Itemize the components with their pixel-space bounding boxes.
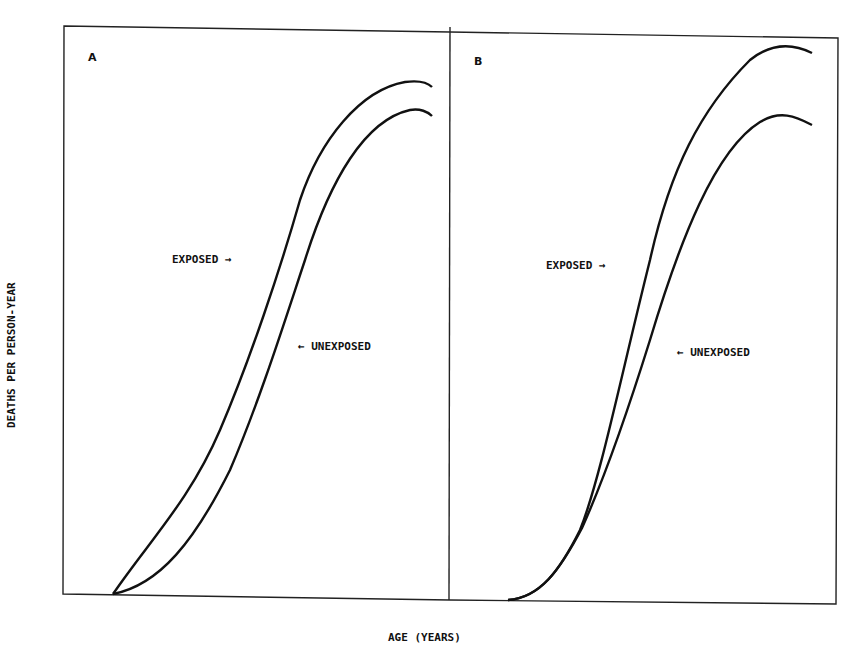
panel-b-unexposed-annotation: ← UNEXPOSED [677, 346, 750, 359]
panel-divider [449, 27, 450, 600]
x-axis-label: AGE (YEARS) [388, 631, 461, 644]
panel-b-label: B [474, 55, 482, 68]
panel-b-exposed-annotation: EXPOSED → [546, 259, 606, 272]
figure: A B EXPOSED → ← UNEXPOSED EXPOSED → ← UN… [0, 0, 854, 662]
panel-a-exposed-annotation: EXPOSED → [172, 253, 232, 266]
panel-a-unexposed-curve [113, 109, 432, 594]
panel-b-exposed-curve [508, 46, 812, 600]
panel-a-unexposed-annotation: ← UNEXPOSED [298, 340, 371, 353]
panel-b-unexposed-curve [508, 115, 812, 600]
y-axis-label: DEATHS PER PERSON-YEAR [5, 282, 18, 428]
panel-a-label: A [88, 51, 97, 64]
panel-a-exposed-curve [113, 81, 432, 594]
